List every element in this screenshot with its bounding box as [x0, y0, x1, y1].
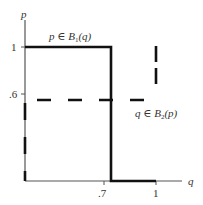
x-axis-label: q	[188, 175, 194, 187]
x-tick-label-1: 1	[153, 187, 159, 199]
x-tick-label-07: .7	[98, 187, 107, 199]
y-tick-label-06: .6	[9, 88, 18, 100]
b1-curve-label: p ∈ B1(q)	[48, 30, 92, 44]
y-axis-label: p	[20, 8, 27, 20]
best-response-diagram: p q 1 .6 .7 1 p ∈ B1(q) q ∈ B2(p)	[0, 0, 203, 205]
y-tick-label-1: 1	[11, 41, 17, 53]
b2-curve-label: q ∈ B2(p)	[135, 107, 178, 121]
